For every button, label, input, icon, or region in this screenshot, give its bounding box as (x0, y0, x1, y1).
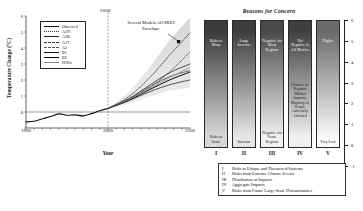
embers-right-axis: 6543210-1 (344, 20, 362, 166)
legend-swatch-is92a (44, 62, 59, 63)
ember-mid-label: Positive or Negative Market Impacts; Maj… (289, 83, 311, 118)
ember-bottom-label: Very Low (317, 140, 339, 144)
right-axis-spine (344, 20, 345, 166)
roman-numeral-iii: III (260, 150, 284, 159)
ember-top-label: Negative for Most Regions (261, 39, 283, 52)
legend-item: IS92a (44, 60, 83, 65)
legend-label: IS92a (62, 60, 72, 65)
ember-roman-numerals: IIIIIIIVV (204, 150, 340, 159)
ipcc-reasons-for-concern-figure: Temperature Change (°C) Year 2000 Severa… (0, 0, 363, 211)
ember-top-label: Higher (317, 39, 339, 43)
embers-title: Reasons for Concern (196, 8, 342, 14)
ember-column-iii: Negative for Most RegionsNegative for So… (260, 20, 284, 148)
reasons-for-concern-key: IRisks to Unique and Threatened SystemsI… (218, 163, 346, 196)
roman-numeral-i: I (204, 150, 228, 159)
legend-swatch-a1fi (44, 31, 59, 32)
legend-swatch-a2 (44, 47, 59, 48)
legend-swatch-a1t (44, 42, 59, 43)
legend-swatch-b1 (44, 52, 59, 53)
legend-swatch-a1b (44, 36, 59, 37)
right-axis-tick-label: 0 (351, 143, 353, 148)
ember-bottom-label: Risks to Some (205, 135, 227, 144)
ember-column-i: Risks to ManyRisks to Some (204, 20, 228, 148)
legend-swatch-b2 (44, 57, 59, 58)
ember-top-label: Risks to Many (205, 39, 227, 48)
roman-numeral-iv: IV (288, 150, 312, 159)
ember-column-v: HigherVery Low (316, 20, 340, 148)
temperature-projection-chart: Temperature Change (°C) Year 2000 Severa… (0, 0, 196, 165)
right-axis-tick-label: 5 (351, 38, 353, 43)
ember-bottom-label: Negative for Some Regions (261, 131, 283, 144)
legend-swatch-observed (44, 26, 59, 27)
right-axis-tick-label: 4 (351, 59, 353, 64)
right-axis-tick-label: 1 (351, 122, 353, 127)
ember-top-label: Large Increase (233, 39, 255, 48)
roman-numeral-v: V (316, 150, 340, 159)
chart-legend: ObservedA1FIA1BA1TA2B1B2IS92a (40, 21, 86, 69)
ember-columns: Risks to ManyRisks to SomeLarge Increase… (204, 20, 340, 148)
right-axis-tick-label: 3 (351, 80, 353, 85)
key-row: VRisks from Future Large-Scale Discontin… (222, 188, 342, 193)
right-axis-tick-label: 2 (351, 101, 353, 106)
ember-column-ii: Large IncreaseIncrease (232, 20, 256, 148)
key-numeral: V (222, 188, 232, 193)
right-axis-tick-label: -1 (351, 164, 355, 169)
burning-embers-panel: Reasons for Concern Risks to ManyRisks t… (196, 0, 363, 211)
chart-plot-area (0, 0, 196, 165)
right-axis-tick-label: 6 (351, 18, 353, 23)
ember-column-iv: Net Negative in All MetricsPositive or N… (288, 20, 312, 148)
ember-top-label: Net Negative in All Metrics (289, 39, 311, 52)
roman-numeral-ii: II (232, 150, 256, 159)
key-description: Risks from Future Large-Scale Discontinu… (232, 188, 342, 193)
ember-bottom-label: Increase (233, 140, 255, 144)
